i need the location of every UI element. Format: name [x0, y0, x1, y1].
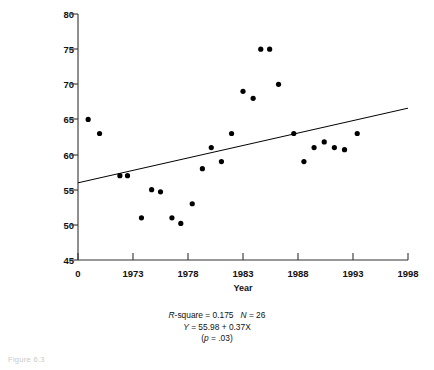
- data-point: [158, 189, 163, 194]
- data-point: [190, 201, 195, 206]
- data-point: [97, 131, 102, 136]
- data-point: [117, 173, 122, 178]
- data-point: [291, 131, 296, 136]
- data-point: [355, 131, 360, 136]
- data-point: [301, 159, 306, 164]
- data-point: [240, 89, 245, 94]
- data-points: [86, 47, 360, 227]
- n-value: = 26: [247, 310, 266, 320]
- data-point: [149, 187, 154, 192]
- data-point: [322, 139, 327, 144]
- data-point: [267, 47, 272, 52]
- data-point: [332, 145, 337, 150]
- plot-area: [0, 0, 434, 300]
- figure-caption: Figure 6.3: [8, 355, 45, 364]
- data-point: [258, 47, 263, 52]
- stat-line-pvalue: (p = .03): [0, 333, 434, 345]
- data-point: [209, 145, 214, 150]
- data-point: [200, 166, 205, 171]
- data-point: [276, 82, 281, 87]
- data-point: [311, 145, 316, 150]
- statistics-annotation: R-square = 0.175 N = 26 Y = 55.98 + 0.37…: [0, 310, 434, 345]
- data-point: [219, 159, 224, 164]
- data-point: [125, 173, 130, 178]
- data-point: [251, 96, 256, 101]
- data-point: [178, 221, 183, 226]
- p-value: = .03): [209, 333, 233, 343]
- r-square-value: -square = 0.175: [175, 310, 234, 320]
- stat-line-equation: Y = 55.98 + 0.37X: [0, 322, 434, 334]
- data-point: [342, 147, 347, 152]
- y-axis-ticks: [71, 14, 78, 260]
- data-point: [86, 117, 91, 122]
- scatter-plot-figure: Percentage of Respondents Who Say That G…: [0, 0, 434, 370]
- regression-line: [78, 108, 408, 183]
- data-point: [169, 215, 174, 220]
- data-point: [229, 131, 234, 136]
- data-point: [139, 215, 144, 220]
- x-axis-ticks: [78, 253, 408, 260]
- equation-rest: = 55.98 + 0.37X: [189, 322, 251, 332]
- stat-line-rsquare-n: R-square = 0.175 N = 26: [0, 310, 434, 322]
